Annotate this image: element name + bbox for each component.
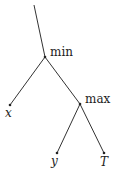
- edge-root-min: [34, 5, 45, 57]
- label-x: x: [5, 106, 12, 120]
- node-min: [44, 56, 47, 59]
- edge-max-y: [57, 104, 80, 153]
- label-max: max: [85, 92, 111, 106]
- label-y: y: [50, 154, 58, 168]
- node-T: [103, 152, 106, 155]
- edge-min-x: [10, 57, 45, 105]
- edge-min-max: [45, 57, 80, 104]
- edge-max-T: [80, 104, 104, 153]
- tree-diagram: min max x y T: [0, 0, 121, 177]
- label-min: min: [50, 45, 73, 59]
- node-max: [79, 103, 82, 106]
- label-T: T: [100, 155, 109, 169]
